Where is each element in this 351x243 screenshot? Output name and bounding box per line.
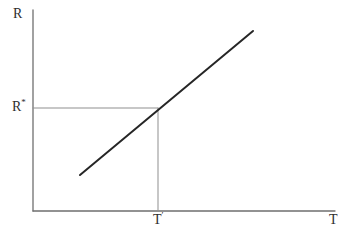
x-marked-value-base: T <box>153 212 162 227</box>
x-axis-label-text: T <box>329 212 338 227</box>
y-marked-value-superscript: * <box>21 97 26 107</box>
upward-sloping-curve <box>80 31 253 175</box>
x-marked-value-superscript: ′ <box>162 210 164 220</box>
y-axis-label: R <box>13 7 22 21</box>
economics-line-figure: R R* T T′ <box>0 0 351 243</box>
y-marked-value-base: R <box>12 99 21 114</box>
x-axis-label: T <box>329 213 338 227</box>
plot-canvas <box>0 0 351 243</box>
y-axis-label-text: R <box>13 6 22 21</box>
y-marked-value-label: R* <box>12 100 26 114</box>
x-marked-value-label: T′ <box>153 213 164 227</box>
